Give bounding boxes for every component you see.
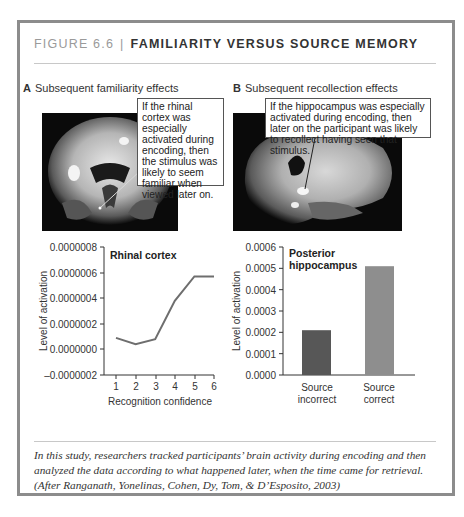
y-tick-label: 0.0000: [245, 370, 276, 381]
y-tick-label: 0.0003: [245, 306, 276, 317]
chart-title-line-1: Posterior: [289, 247, 335, 259]
figure-caption: In this study, researchers tracked parti…: [34, 448, 442, 493]
y-tick-label: 0.0005: [245, 263, 276, 274]
header-rule: [34, 63, 436, 64]
category-label-line-1: Source: [363, 382, 395, 393]
chart-title-line-2: hippocampus: [289, 259, 357, 271]
figure-separator: |: [120, 37, 124, 51]
panel-b-callout: If the hippocampus was especially activa…: [265, 98, 431, 138]
caption-text: In this study, researchers tracked parti…: [34, 449, 426, 476]
y-tick-label: 0.0000006: [50, 268, 98, 279]
category-label-line-2: correct: [364, 394, 395, 405]
panel-b-letter: B: [233, 82, 241, 94]
chart-title: Rhinal cortex: [110, 249, 177, 261]
panel-a-callout: If the rhinal cortex was especially acti…: [137, 98, 224, 186]
x-axis-label: Recognition confidence: [108, 396, 212, 407]
bar: [302, 330, 331, 375]
caption-rule: [34, 441, 436, 442]
y-tick-label: 0.0000002: [50, 319, 98, 330]
panel-a-label: ASubsequent familiarity effects: [23, 82, 178, 94]
figure-number: FIGURE 6.6: [34, 37, 114, 51]
y-tick-label: 0.0002: [245, 327, 276, 338]
y-tick-label: 0.0000000: [50, 344, 98, 355]
panel-a-letter: A: [23, 82, 31, 94]
caption-citation: (After Ranganath, Yonelinas, Cohen, Dy, …: [34, 479, 340, 491]
y-tick-label: –0.0000002: [44, 370, 97, 381]
y-tick-label: 0.0000008: [50, 242, 98, 253]
x-tick-label: 2: [133, 381, 139, 392]
x-tick-label: 4: [172, 381, 178, 392]
panel-b-label: BSubsequent recollection effects: [233, 82, 398, 94]
figure-heading: FIGURE 6.6|FAMILIARITY VERSUS SOURCE MEM…: [34, 37, 418, 51]
panel-b-title: Subsequent recollection effects: [245, 82, 398, 94]
bar: [365, 266, 394, 375]
posterior-hippocampus-bar-chart: Level of activation 0.00060.00050.00040.…: [230, 238, 450, 413]
figure-title: FAMILIARITY VERSUS SOURCE MEMORY: [131, 37, 419, 51]
y-axis: 0.0000008 0.0000006 0.0000004 0.0000002 …: [38, 242, 104, 381]
y-tick-label: 0.0004: [245, 285, 276, 296]
category-label-line-2: incorrect: [298, 394, 337, 405]
x-axis: 1 2 3 4 5 6 Recognition confidence: [104, 375, 217, 407]
category-label-line-1: Source: [301, 382, 333, 393]
panel-a-title: Subsequent familiarity effects: [35, 82, 178, 94]
x-tick-label: 1: [113, 381, 119, 392]
x-tick-label: 3: [153, 381, 159, 392]
y-axis-label: Level of activation: [231, 271, 242, 351]
x-tick-label: 5: [192, 381, 198, 392]
bars: [302, 266, 394, 375]
x-tick-label: 6: [211, 381, 217, 392]
y-tick-label: 0.0006: [245, 242, 276, 253]
activation-line: [116, 276, 214, 344]
y-axis-label: Level of activation: [38, 271, 49, 351]
y-tick-label: 0.0000004: [50, 293, 98, 304]
y-ticks: 0.00060.00050.00040.00030.00020.00010.00…: [245, 242, 283, 381]
y-tick-label: 0.0001: [245, 349, 276, 360]
rhinal-cortex-line-chart: 0.0000008 0.0000006 0.0000004 0.0000002 …: [20, 238, 230, 413]
